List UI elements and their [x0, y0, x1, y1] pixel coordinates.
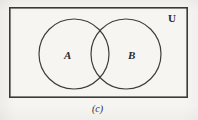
set-b-label: B	[128, 50, 135, 61]
venn-diagram-figure: U A B (c)	[0, 0, 198, 120]
set-a-label: A	[64, 50, 71, 61]
figure-caption: (c)	[92, 104, 103, 114]
set-b-circle	[91, 19, 161, 89]
set-a-circle	[39, 19, 109, 89]
universal-set-label: U	[168, 13, 176, 24]
